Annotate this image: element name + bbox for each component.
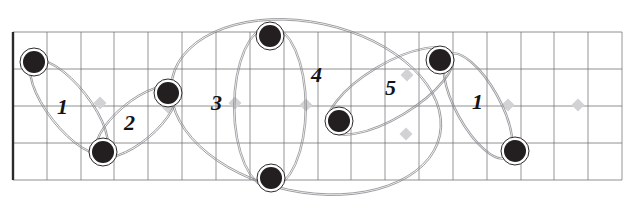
cluster-label-6: 1: [472, 91, 483, 113]
lasso-3: [235, 27, 305, 187]
diamond-marker: [300, 99, 313, 112]
node-dot[interactable]: [92, 141, 114, 163]
cluster-label-4: 4: [311, 64, 322, 86]
cluster-label-1: 1: [57, 96, 68, 118]
node-dot[interactable]: [328, 110, 350, 132]
node-dot[interactable]: [23, 51, 45, 73]
node-dot[interactable]: [504, 140, 526, 162]
diagram-canvas: 123451: [0, 0, 633, 212]
diamond-marker: [400, 128, 413, 141]
node-dot[interactable]: [157, 82, 179, 104]
diamond-marker: [401, 69, 414, 82]
cluster-label-3: 3: [211, 92, 222, 114]
cluster-label-2: 2: [124, 112, 135, 134]
diagram-svg: [0, 0, 633, 212]
node-dot[interactable]: [259, 25, 281, 47]
node-dot[interactable]: [260, 167, 282, 189]
node-dot[interactable]: [429, 49, 451, 71]
cluster-label-5: 5: [385, 77, 396, 99]
diamond-marker: [572, 99, 585, 112]
